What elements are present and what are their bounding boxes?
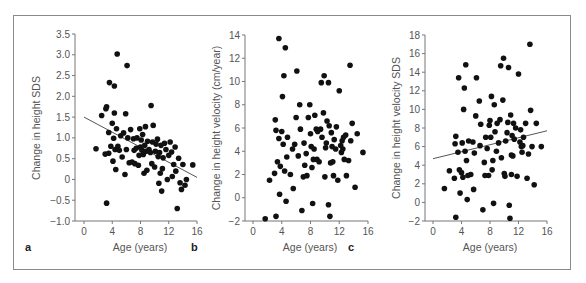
data-point: [468, 172, 474, 178]
x-tick-label: 0: [81, 226, 87, 237]
data-point: [182, 182, 188, 188]
data-point: [354, 131, 360, 137]
panel-c-y-axis-title: Change in height velocity SDS: [390, 57, 402, 199]
data-point: [184, 177, 190, 183]
y-tick-label: 16: [409, 48, 421, 59]
data-point: [124, 147, 130, 153]
data-point: [487, 118, 493, 124]
data-point: [452, 141, 458, 147]
data-point: [167, 139, 173, 145]
y-tick-label: 1.0: [56, 132, 70, 143]
data-point: [514, 174, 520, 180]
data-point: [160, 155, 166, 161]
y-tick-label: 0.5: [56, 153, 70, 164]
data-point: [346, 158, 352, 164]
data-point: [93, 146, 99, 152]
data-point: [471, 187, 477, 193]
y-tick-label: 3.0: [56, 49, 70, 60]
data-point: [155, 136, 161, 142]
data-point: [180, 162, 186, 168]
data-point: [518, 127, 524, 133]
data-point: [165, 177, 171, 183]
data-point: [321, 73, 327, 79]
data-point: [173, 168, 179, 174]
panel-a-scatter: a Age (years) Change in height SDS −1.0−…: [25, 29, 203, 254]
data-point: [520, 143, 526, 149]
data-point: [318, 80, 324, 86]
figure-svg: a Age (years) Change in height SDS −1.0−…: [0, 0, 586, 283]
data-point: [483, 135, 489, 141]
data-point: [279, 129, 285, 135]
panel-b-x-axis-title: Age (years): [283, 241, 337, 253]
data-point: [452, 175, 458, 181]
data-point: [114, 126, 120, 132]
data-point: [113, 167, 119, 173]
x-tick-label: 12: [334, 226, 346, 237]
data-point: [484, 146, 490, 152]
data-point: [489, 94, 495, 100]
data-point: [111, 136, 117, 142]
data-point: [312, 112, 318, 118]
data-point: [539, 144, 545, 150]
data-point: [486, 173, 492, 179]
data-point: [503, 138, 509, 144]
data-point: [140, 132, 146, 138]
data-point: [295, 153, 301, 159]
x-tick-label: 16: [362, 226, 374, 237]
y-tick-label: 12: [229, 53, 241, 64]
y-tick-label: 2: [414, 178, 420, 189]
data-point: [531, 182, 537, 188]
data-point: [470, 139, 476, 145]
data-point: [117, 148, 123, 154]
data-point: [331, 137, 337, 143]
data-point: [462, 148, 468, 154]
x-tick-label: 0: [430, 226, 436, 237]
data-point: [281, 73, 287, 79]
data-point: [529, 144, 535, 150]
data-point: [114, 51, 120, 57]
data-point: [267, 178, 273, 184]
data-point: [326, 123, 332, 129]
data-point: [283, 45, 289, 51]
y-tick-label: 0: [64, 174, 70, 185]
data-point: [344, 173, 350, 179]
data-point: [499, 155, 505, 161]
y-tick-label: 14: [409, 67, 421, 78]
data-point: [262, 216, 268, 222]
data-point: [119, 154, 125, 160]
y-tick-label: 10: [409, 104, 421, 115]
data-point: [473, 113, 479, 119]
data-point: [288, 172, 294, 178]
data-point: [340, 146, 346, 152]
data-point: [275, 159, 281, 165]
data-point: [494, 148, 500, 154]
x-tick-label: 0: [250, 226, 256, 237]
data-point: [316, 159, 322, 165]
data-point: [463, 62, 469, 68]
data-point: [496, 140, 502, 146]
data-point: [159, 188, 165, 194]
data-point: [333, 146, 339, 152]
data-point: [460, 174, 466, 180]
data-point: [498, 63, 504, 69]
data-point: [110, 158, 116, 164]
data-point: [294, 68, 300, 74]
data-point: [534, 121, 540, 127]
data-point: [464, 197, 470, 203]
y-tick-label: 0: [414, 197, 420, 208]
data-point: [497, 117, 503, 123]
data-point: [489, 167, 495, 173]
data-point: [99, 113, 105, 119]
x-tick-label: 12: [163, 226, 175, 237]
data-point: [273, 214, 279, 220]
data-point: [508, 112, 514, 118]
data-point: [304, 173, 310, 179]
data-point: [172, 144, 178, 150]
data-point: [160, 166, 166, 172]
data-point: [152, 164, 158, 170]
data-point: [283, 198, 289, 204]
data-point: [190, 162, 196, 168]
data-point: [455, 149, 461, 155]
y-tick-label: 8: [414, 123, 420, 134]
y-tick-label: 1.5: [56, 112, 70, 123]
